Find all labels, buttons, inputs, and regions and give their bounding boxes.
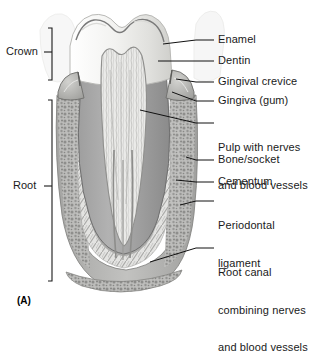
label-bone-socket: Bone/socket <box>218 153 280 166</box>
label-dentin-line1: Dentin <box>218 54 250 66</box>
label-root-canal-line1: Root canal <box>218 266 308 279</box>
bracket-label-root: Root <box>13 179 36 191</box>
label-root-canal: Root canal combining nerves and blood ve… <box>218 241 308 355</box>
neighbor-tooth-ghost-right <box>194 11 224 81</box>
label-root-canal-line2: combining nerves <box>218 304 308 317</box>
label-root-canal-line3: and blood vessels <box>218 341 308 354</box>
bracket-label-crown: Crown <box>6 45 38 57</box>
label-gingival-crevice: Gingival crevice <box>218 75 297 88</box>
label-periodontal-line1: Periodontal <box>218 219 275 232</box>
label-cementum-line1: Cementum <box>218 175 273 187</box>
label-gingiva-gum: Gingiva (gum) <box>218 94 288 107</box>
label-pulp-line1: Pulp with nerves <box>218 141 308 154</box>
label-dentin: Dentin <box>218 54 250 67</box>
label-bone-socket-line1: Bone/socket <box>218 153 280 165</box>
figure-id: (A) <box>17 295 31 306</box>
label-enamel: Enamel <box>218 33 256 46</box>
label-gingival-crevice-line1: Gingival crevice <box>218 75 297 87</box>
label-cementum: Cementum <box>218 175 273 188</box>
label-gingiva-gum-line1: Gingiva (gum) <box>218 94 288 106</box>
label-enamel-line1: Enamel <box>218 33 256 45</box>
